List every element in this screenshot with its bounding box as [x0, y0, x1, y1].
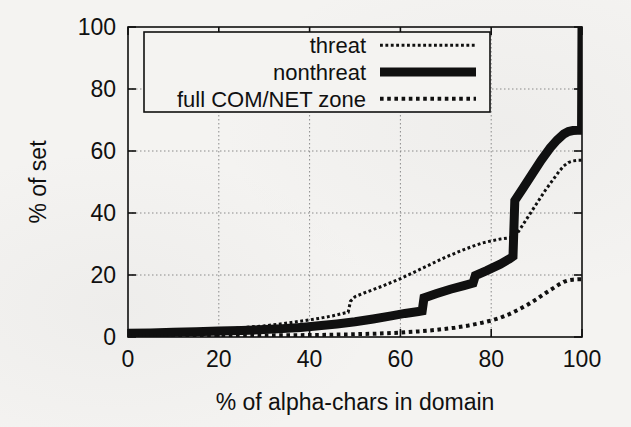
x-tick-label: 100	[563, 346, 601, 372]
y-axis-title: % of set	[25, 140, 51, 224]
y-tick-label: 60	[90, 138, 116, 164]
x-tick-label: 80	[478, 346, 504, 372]
x-tick-label: 20	[206, 346, 232, 372]
legend-item-nonthreat-label: nonthreat	[273, 60, 366, 85]
legend-item-full-com-net-zone-label: full COM/NET zone	[177, 87, 366, 112]
x-axis-title: % of alpha-chars in domain	[216, 389, 495, 415]
y-tick-label: 20	[90, 262, 116, 288]
x-tick-label: 0	[122, 346, 135, 372]
x-tick-label: 40	[297, 346, 323, 372]
legend-item-threat-label: threat	[310, 33, 366, 58]
figure-canvas: 020406080100020406080100 % of set % of a…	[0, 0, 631, 427]
x-tick-label: 60	[388, 346, 414, 372]
legend: threatnonthreatfull COM/NET zone	[144, 32, 490, 112]
y-tick-label: 80	[90, 76, 116, 102]
y-tick-label: 0	[103, 324, 116, 350]
y-tick-label: 100	[78, 14, 116, 40]
line-chart: 020406080100020406080100 % of set % of a…	[0, 0, 631, 427]
y-tick-label: 40	[90, 200, 116, 226]
